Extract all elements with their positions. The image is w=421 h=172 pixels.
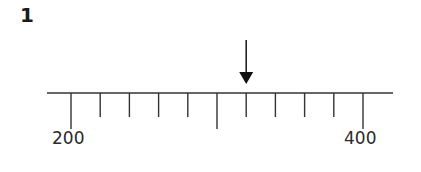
- label-end-value: 400: [344, 128, 376, 148]
- number-line-ticks: [71, 93, 363, 129]
- label-start-value: 200: [52, 128, 84, 148]
- arrow-down-icon: [239, 40, 253, 84]
